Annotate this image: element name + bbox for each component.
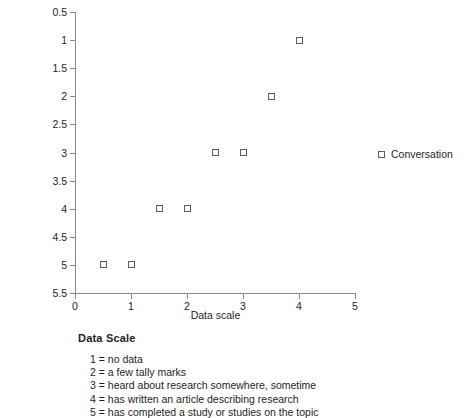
x-axis-line [75,293,356,294]
data-point-marker [212,149,219,156]
data-point-marker [128,261,135,268]
y-axis-tick-label: 4 [61,203,67,214]
scatter-chart-figure: Number of meters away, at which conversa… [0,0,467,418]
y-axis-tick-label: 1.5 [52,63,67,74]
y-axis-tick-label: 0.5 [52,7,67,18]
data-point-marker [184,205,191,212]
y-axis-tick-label: 2 [61,91,67,102]
data-scale-item: 4 = has written an article describing re… [90,393,408,406]
y-axis-tick-label: 1 [61,35,67,46]
y-axis-tick-label: 3.5 [52,175,67,186]
data-scale-item: 5 = has completed a study or studies on … [90,406,408,418]
y-axis-tick-label: 2.5 [52,119,67,130]
data-scale-item: 3 = heard about research somewhere, some… [90,379,408,392]
data-scale-list: 1 = no data2 = a few tally marks3 = hear… [78,353,408,418]
x-axis-tick-mark [355,293,356,299]
y-axis-tick-label: 3 [61,147,67,158]
x-axis-tick-mark [131,293,132,299]
data-scale-heading: Data Scale [78,332,408,344]
x-axis-title: Data scale [75,309,356,321]
data-point-marker [100,261,107,268]
x-axis-tick-mark [187,293,188,299]
y-axis-tick-label: 4.5 [52,232,67,243]
data-point-marker [268,93,275,100]
x-axis-tick-mark [299,293,300,299]
y-axis-title: Number of meters away, at which conversa… [14,0,40,38]
x-axis-tick-mark [75,293,76,299]
series-legend: Conversation [378,148,453,160]
y-axis-tick-label: 5 [61,260,67,271]
data-point-marker [296,37,303,44]
data-scale-item: 2 = a few tally marks [90,366,408,379]
y-axis-tick-label: 5.5 [52,288,67,299]
open-square-marker-icon [378,151,385,158]
data-point-marker [156,205,163,212]
plot-area [75,12,355,293]
data-scale-key: Data Scale 1 = no data2 = a few tally ma… [78,332,408,418]
data-point-marker [240,149,247,156]
data-scale-item: 1 = no data [90,353,408,366]
x-axis-tick-mark [243,293,244,299]
series-legend-label: Conversation [391,148,453,160]
